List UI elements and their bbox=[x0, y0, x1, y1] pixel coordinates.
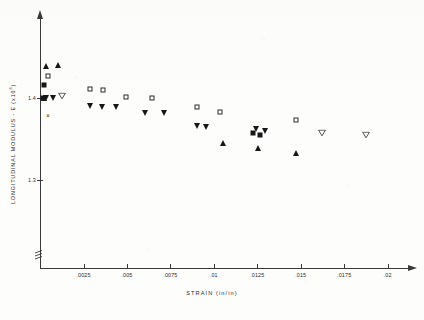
data-point-square-open bbox=[45, 74, 50, 79]
x-axis-tick bbox=[214, 264, 215, 268]
x-axis-tick bbox=[301, 264, 302, 268]
data-point-square-open bbox=[87, 87, 92, 92]
x-axis-tick-label: .015 bbox=[295, 272, 306, 278]
x-axis-tick-label: .02 bbox=[384, 272, 392, 278]
data-point-tri-down-open bbox=[58, 92, 66, 99]
data-point-square-filled bbox=[257, 132, 262, 137]
data-point-tri-down-filled bbox=[113, 104, 119, 110]
y-axis-break-icon bbox=[34, 249, 47, 267]
data-point-square-open bbox=[124, 94, 129, 99]
x-axis-tick bbox=[170, 264, 171, 268]
data-point-tri-down-filled bbox=[194, 123, 200, 129]
y-axis-title-text: LONGITUDINAL MODULUS - E (x10 bbox=[10, 90, 16, 205]
x-axis-tick-label: .01 bbox=[210, 272, 218, 278]
data-point-tri-up-filled bbox=[43, 63, 49, 69]
scatter-plot-figure: .0025.005.0075.01.0125.015.0175.021.41.3… bbox=[0, 0, 424, 320]
y-axis-tick-label: 1.4 bbox=[28, 95, 36, 101]
data-point-tri-up-filled bbox=[41, 95, 47, 101]
x-axis-tick bbox=[84, 264, 85, 268]
data-point-x: × bbox=[46, 113, 50, 120]
x-axis-tick-label: .0125 bbox=[250, 272, 264, 278]
data-point-tri-down-filled bbox=[161, 110, 167, 116]
x-axis-tick bbox=[127, 264, 128, 268]
data-point-tri-up-filled bbox=[293, 150, 299, 156]
x-axis-tick-label: .0025 bbox=[76, 272, 90, 278]
data-point-tri-up-filled bbox=[255, 145, 261, 151]
y-axis-tick bbox=[37, 180, 43, 181]
data-point-square-open bbox=[294, 117, 299, 122]
data-point-square-open bbox=[150, 96, 155, 101]
data-point-tri-down-filled bbox=[87, 103, 93, 109]
y-axis-arrow-icon bbox=[37, 10, 43, 19]
y-axis-line bbox=[40, 18, 41, 268]
data-point-square-filled bbox=[250, 130, 255, 135]
x-axis-tick bbox=[388, 264, 389, 268]
x-axis-tick bbox=[257, 264, 258, 268]
data-point-square-open bbox=[195, 104, 200, 109]
data-point-square-filled bbox=[42, 82, 47, 87]
data-point-square-open bbox=[217, 109, 222, 114]
x-axis-tick-label: .005 bbox=[121, 272, 132, 278]
y-axis-tick-label: 1.3 bbox=[28, 177, 36, 183]
data-point-tri-down-filled bbox=[50, 95, 56, 101]
data-point-tri-down-filled bbox=[99, 104, 105, 110]
x-axis-arrow-icon bbox=[408, 265, 417, 271]
y-axis-title-close: ) bbox=[10, 84, 16, 87]
x-axis-title: STRAIN (in/in) bbox=[0, 290, 424, 296]
x-axis-tick-label: .0075 bbox=[163, 272, 177, 278]
data-point-tri-down-filled bbox=[262, 128, 268, 134]
data-point-tri-down-filled bbox=[142, 110, 148, 116]
data-point-tri-down-open bbox=[362, 132, 370, 139]
data-point-square-open bbox=[101, 88, 106, 93]
data-point-tri-up-filled bbox=[55, 62, 61, 68]
x-axis-tick-label: .0175 bbox=[337, 272, 351, 278]
x-axis-line bbox=[40, 268, 412, 269]
x-axis-tick bbox=[344, 264, 345, 268]
data-point-tri-down-open bbox=[318, 129, 326, 136]
data-point-tri-up-filled bbox=[220, 140, 226, 146]
y-axis-title: LONGITUDINAL MODULUS - E (x106) bbox=[8, 59, 16, 229]
data-point-tri-down-filled bbox=[203, 124, 209, 130]
